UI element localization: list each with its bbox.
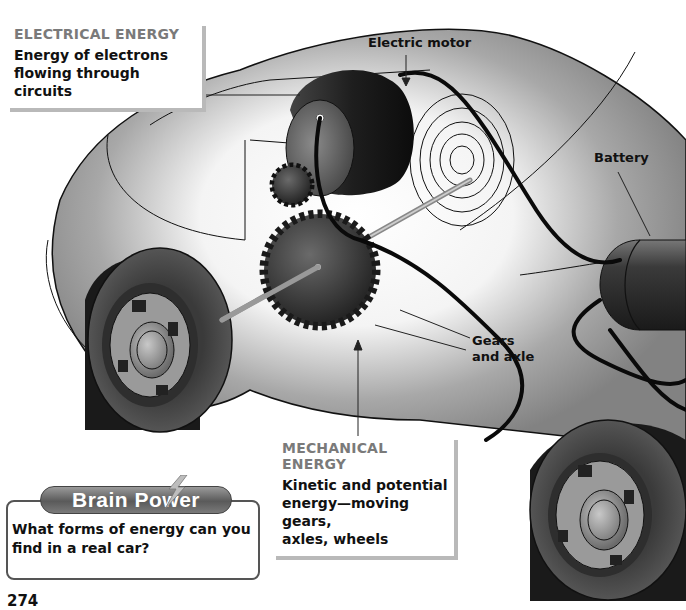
gears-and-axle-label: Gears and axle <box>472 333 534 365</box>
gears-label-line2: and axle <box>472 349 534 365</box>
large-gear <box>264 214 376 326</box>
electrical-energy-callout: ELECTRICAL ENERGY Energy of electrons fl… <box>6 22 202 108</box>
electrical-energy-body-line1: Energy of electrons <box>14 46 198 64</box>
brain-power-banner: Brain Power <box>40 486 232 514</box>
gears-label-line1: Gears <box>472 333 534 349</box>
mechanical-energy-body-line1: Kinetic and potential <box>282 476 450 494</box>
small-gear <box>272 165 312 205</box>
brain-power-question-line2: find in a real car? <box>12 539 252 558</box>
battery <box>600 240 686 330</box>
electric-motor-label: Electric motor <box>368 35 471 51</box>
electrical-energy-body-line2: flowing through circuits <box>14 64 198 100</box>
lightning-bolt-icon <box>159 475 189 509</box>
mechanical-energy-body-line3: axles, wheels <box>282 530 450 548</box>
electrical-energy-heading: ELECTRICAL ENERGY <box>14 26 198 42</box>
brain-power-question-line1: What forms of energy can you <box>12 520 252 539</box>
battery-label: Battery <box>594 150 649 166</box>
front-wheel <box>88 248 232 432</box>
rear-wheel <box>530 420 686 600</box>
mechanical-energy-heading: MECHANICAL ENERGY <box>282 440 450 472</box>
mechanical-energy-body-line2: energy—moving gears, <box>282 494 450 530</box>
brain-power-question: What forms of energy can you find in a r… <box>12 520 252 558</box>
page-number: 274 <box>7 592 38 610</box>
mechanical-energy-callout: MECHANICAL ENERGY Kinetic and potential … <box>272 436 454 556</box>
